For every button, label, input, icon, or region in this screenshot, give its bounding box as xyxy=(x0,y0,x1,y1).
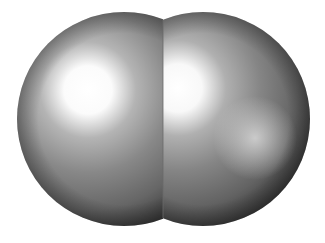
molecule-svg xyxy=(0,0,325,243)
molecule-render xyxy=(0,0,325,243)
